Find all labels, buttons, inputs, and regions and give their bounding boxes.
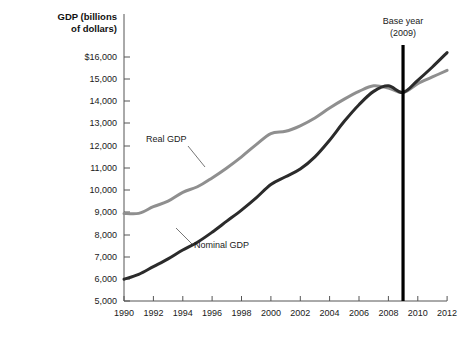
y-tick-label: 11,000 — [90, 163, 117, 173]
x-tick-label: 2012 — [437, 308, 457, 318]
series-line-nominal-gdp — [124, 53, 447, 280]
x-axis-ticks — [124, 296, 447, 301]
y-tick-label: $16,000 — [84, 52, 117, 62]
y-axis-tick-labels: $16,000 15,000 14,000 13,000 12,000 11,0… — [84, 52, 117, 306]
x-tick-label: 1992 — [143, 308, 163, 318]
y-axis-ticks — [124, 57, 130, 301]
gdp-line-chart: GDP (billions of dollars) $16,000 15,000… — [0, 0, 458, 337]
y-axis-title-line1: GDP (billions — [58, 11, 117, 22]
real-gdp-leader-line — [188, 146, 205, 167]
x-tick-label: 1990 — [114, 308, 134, 318]
nominal-gdp-label: Nominal GDP — [194, 240, 249, 250]
x-tick-label: 1998 — [231, 308, 251, 318]
y-tick-label: 7,000 — [94, 252, 117, 262]
y-tick-label: 10,000 — [89, 185, 117, 195]
y-tick-label: 14,000 — [89, 96, 117, 106]
chart-canvas: GDP (billions of dollars) $16,000 15,000… — [0, 0, 458, 337]
x-tick-label: 2004 — [320, 308, 340, 318]
y-tick-label: 6,000 — [94, 274, 117, 284]
x-axis-tick-labels: 1990 1992 1994 1996 1998 2000 2002 2004 … — [114, 308, 457, 318]
x-tick-label: 2000 — [261, 308, 281, 318]
nominal-gdp-leader-line — [176, 228, 192, 244]
y-tick-label: 8,000 — [94, 230, 117, 240]
x-tick-label: 1996 — [202, 308, 222, 318]
x-tick-label: 2006 — [349, 308, 369, 318]
x-tick-label: 2008 — [378, 308, 398, 318]
base-year-year-label: (2009) — [390, 28, 416, 38]
real-gdp-label: Real GDP — [146, 134, 187, 144]
y-tick-label: 12,000 — [89, 141, 117, 151]
x-tick-label: 2010 — [408, 308, 428, 318]
y-axis-title-line2: of dollars) — [71, 23, 117, 34]
y-tick-label: 9,000 — [94, 207, 117, 217]
base-year-label: Base year — [383, 16, 424, 26]
x-tick-label: 2002 — [290, 308, 310, 318]
y-tick-label: 13,000 — [89, 118, 117, 128]
y-tick-label: 15,000 — [89, 74, 117, 84]
y-tick-label: 5,000 — [94, 296, 117, 306]
x-tick-label: 1994 — [173, 308, 193, 318]
